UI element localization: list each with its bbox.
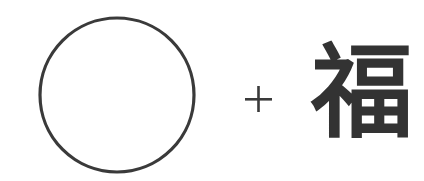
chinese-character-fu: 福 xyxy=(308,30,416,154)
plus-operator xyxy=(245,86,272,112)
diagram-canvas: 福 xyxy=(0,0,424,181)
plus-vertical-stroke xyxy=(257,86,260,112)
circle-shape xyxy=(40,18,194,172)
